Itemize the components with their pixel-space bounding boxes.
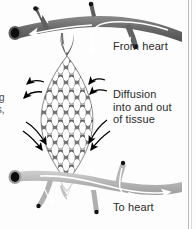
label-from-heart: From heart (113, 40, 168, 53)
page-border-line-secondary (191, 0, 192, 229)
label-to-heart: To heart (113, 201, 154, 214)
label-diffusion: Diffusion into and out of tissue (113, 88, 172, 126)
page-border-line (188, 0, 189, 229)
capillary-bed-diagram: From heart Diffusion into and out of tis… (0, 0, 196, 229)
clipped-left-column-text: g ts, (0, 92, 5, 116)
